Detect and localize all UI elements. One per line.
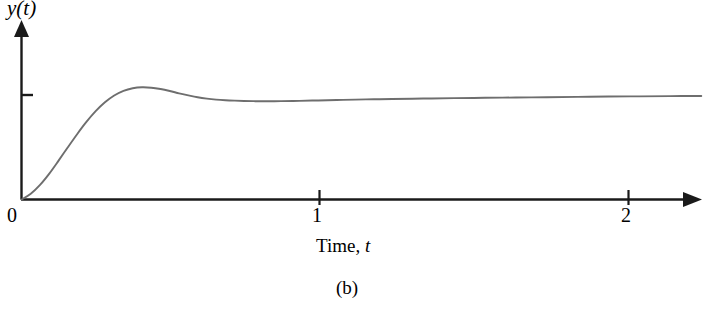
figure-container: y(t) 0 1 2 Time, t (b) xyxy=(0,0,706,311)
x-axis-label-variable: t xyxy=(365,235,370,256)
x-axis-label-text: Time, xyxy=(316,235,365,256)
plot-canvas xyxy=(0,0,706,311)
y-axis-label: y(t) xyxy=(7,0,36,19)
y-axis-arrowhead xyxy=(14,20,29,37)
x-axis-label: Time, t xyxy=(316,236,370,255)
x-tick-label-2: 2 xyxy=(621,205,631,225)
figure-caption: (b) xyxy=(336,278,358,297)
response-curve xyxy=(22,87,702,199)
x-tick-label-1: 1 xyxy=(312,205,322,225)
x-tick-label-0: 0 xyxy=(7,205,17,225)
x-axis-arrowhead xyxy=(683,192,702,207)
